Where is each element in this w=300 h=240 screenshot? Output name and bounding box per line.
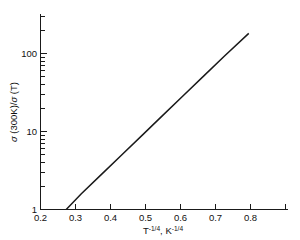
y-axis-label: σ (300K)/σ (T): [8, 82, 19, 142]
x-tick-label: 0.8: [244, 212, 257, 223]
x-tick-label: 0.7: [209, 212, 222, 223]
figure-container: 0.2 0.3 0.4 0.5 0.6 0.7 0.8 1 10 100 T-1…: [0, 0, 300, 240]
x-tick-label: 0.3: [69, 212, 82, 223]
x-tick-label: 0.4: [104, 212, 117, 223]
x-tick-label: 0.6: [174, 212, 187, 223]
chart-svg: 0.2 0.3 0.4 0.5 0.6 0.7 0.8 1 10 100 T-1…: [0, 0, 300, 240]
y-tick-label: 100: [21, 48, 37, 59]
chart-background: [0, 0, 300, 240]
y-tick-label: 10: [26, 126, 37, 137]
y-tick-label: 1: [32, 204, 37, 215]
x-tick-label: 0.5: [139, 212, 152, 223]
